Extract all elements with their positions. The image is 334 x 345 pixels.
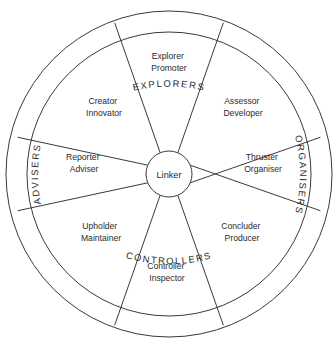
hub-label-linker: Linker	[156, 170, 181, 180]
sector-label-upholder-maintainer: Upholder Maintainer	[81, 221, 121, 243]
sector-label-creator-innovator: Creator Innovator	[86, 96, 122, 118]
sector-label-concluder-producer: Concluder Producer	[221, 221, 263, 243]
sector-label-reporter-adviser: Reporter Adviser	[66, 152, 102, 174]
sector-label-thruster-organiser: Thruster Organiser	[244, 152, 282, 174]
sector-label-assessor-developer: Assessor Developer	[223, 96, 262, 118]
sector-label-explorer-promoter: Explorer Promoter	[151, 51, 186, 73]
team-roles-wheel-diagram: Explorer Promoter Assessor Developer Thr…	[0, 0, 334, 345]
wheel-svg-canvas: Explorer Promoter Assessor Developer Thr…	[0, 0, 334, 345]
